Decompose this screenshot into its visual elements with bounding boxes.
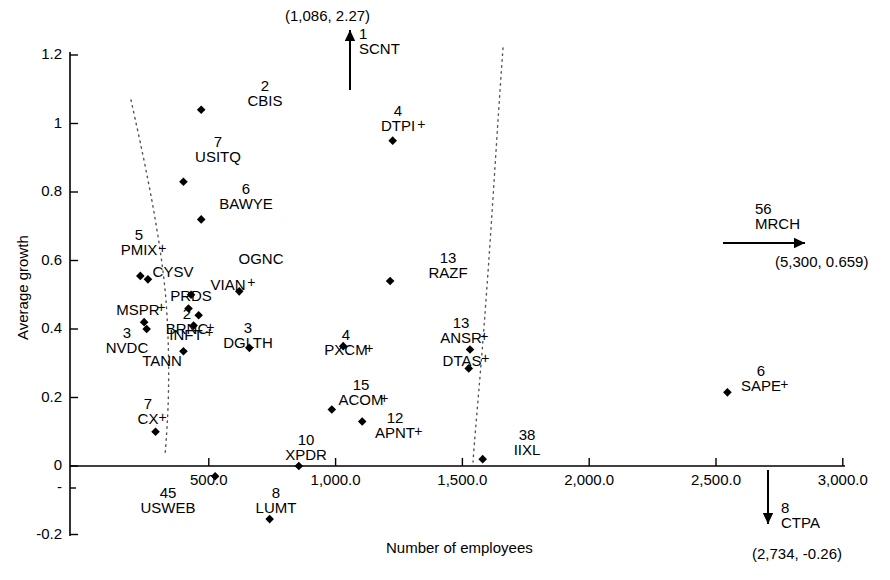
data-point-ticker: DTAS bbox=[419, 353, 505, 368]
data-point-rank: 3 bbox=[84, 325, 170, 340]
data-point-rank: 10 bbox=[263, 432, 349, 447]
data-point-rank: 2 bbox=[144, 306, 230, 321]
data-point-ticker: RAZF bbox=[405, 265, 491, 280]
off-scale-rank: 56 bbox=[755, 201, 831, 216]
data-point-rank: 15 bbox=[318, 377, 404, 392]
data-point-ticker: USWEB bbox=[125, 500, 211, 515]
data-point-label: 6BAWYE bbox=[203, 181, 289, 212]
data-point-rank: 13 bbox=[418, 315, 504, 330]
data-point-rank: 2 bbox=[222, 78, 308, 93]
x-tick-label: 2,000.0 bbox=[539, 472, 639, 487]
data-point-ticker: IIXL bbox=[484, 442, 570, 457]
data-point-marker bbox=[265, 515, 274, 524]
data-point-marker bbox=[386, 277, 395, 286]
x-tick-label: 1,500.0 bbox=[412, 472, 512, 487]
data-point-label: TANN bbox=[119, 353, 205, 368]
data-point-label: 6SAPE bbox=[718, 363, 804, 394]
data-point-ticker: DTPI bbox=[355, 118, 441, 133]
plus-marker-icon: + bbox=[417, 116, 425, 132]
data-point-label: 7CX bbox=[105, 396, 191, 427]
off-scale-coordinates: (2,734, -0.26) bbox=[752, 546, 842, 561]
plus-marker-icon: + bbox=[480, 328, 488, 344]
y-tick-label: 1 bbox=[0, 115, 62, 130]
data-point-rank: 4 bbox=[355, 103, 441, 118]
off-scale-rank: 8 bbox=[781, 500, 857, 515]
x-axis-title: Number of employees bbox=[386, 540, 533, 555]
data-point-marker bbox=[179, 177, 188, 186]
off-scale-ticker: CTPA bbox=[781, 515, 857, 530]
off-scale-label: 56MRCH bbox=[755, 201, 831, 232]
plus-marker-icon: + bbox=[481, 350, 489, 366]
y-tick-label: 0.6 bbox=[0, 252, 62, 267]
y-tick-label: 1.2 bbox=[0, 46, 62, 61]
data-point-label: 3DGLTH bbox=[205, 320, 291, 351]
plus-marker-icon: + bbox=[247, 274, 255, 290]
y-minor-tick-dash: - bbox=[0, 479, 62, 494]
data-point-ticker: APNT bbox=[352, 425, 438, 440]
data-point-label: 15ACOM bbox=[318, 377, 404, 408]
data-point-label: 13RAZF bbox=[405, 250, 491, 281]
data-point-rank: 7 bbox=[105, 396, 191, 411]
data-point-label: 4PXCM bbox=[303, 327, 389, 358]
data-point-ticker: ANSR bbox=[418, 330, 504, 345]
data-point-marker bbox=[388, 136, 397, 145]
y-tick-label: 0.4 bbox=[0, 320, 62, 335]
data-point-rank: 45 bbox=[125, 485, 211, 500]
data-point-ticker: ACOM bbox=[318, 392, 404, 407]
scatter-plot-figure: Average growth Number of employees 1.210… bbox=[0, 0, 890, 580]
y-tick-label: 0 bbox=[0, 457, 62, 472]
y-tick-label: 0.8 bbox=[0, 183, 62, 198]
y-axis-ticks bbox=[70, 55, 78, 535]
plus-marker-icon: + bbox=[380, 390, 388, 406]
y-tick-label: 0.2 bbox=[0, 389, 62, 404]
data-point-label: 8LUMT bbox=[233, 485, 319, 516]
data-point-label: 4DTPI bbox=[355, 103, 441, 134]
off-scale-label: 8CTPA bbox=[781, 500, 857, 531]
data-point-ticker: BAWYE bbox=[203, 196, 289, 211]
data-point-label: 2CBIS bbox=[222, 78, 308, 109]
data-point-label: 7USITQ bbox=[175, 134, 261, 165]
data-point-ticker: LUMT bbox=[233, 500, 319, 515]
off-scale-coordinates: (5,300, 0.659) bbox=[775, 254, 868, 269]
data-point-rank: 6 bbox=[203, 181, 289, 196]
data-point-ticker: CBIS bbox=[222, 93, 308, 108]
data-point-ticker: USITQ bbox=[175, 149, 261, 164]
data-point-marker bbox=[151, 427, 160, 436]
plus-marker-icon: + bbox=[414, 423, 422, 439]
x-tick-label: 2,500.0 bbox=[666, 472, 766, 487]
plus-marker-icon: + bbox=[780, 376, 788, 392]
data-point-label: OGNC bbox=[218, 251, 304, 266]
data-point-label: 10XPDR bbox=[263, 432, 349, 463]
data-point-label: 13ANSR bbox=[418, 315, 504, 346]
data-point-rank: 7 bbox=[175, 134, 261, 149]
data-point-marker bbox=[197, 106, 206, 115]
arrow-right-mrch bbox=[723, 238, 805, 248]
data-point-ticker: PMIX bbox=[96, 242, 182, 257]
data-point-ticker: CX bbox=[105, 411, 191, 426]
data-point-ticker: TANN bbox=[119, 353, 205, 368]
data-point-label: 12APNT bbox=[352, 410, 438, 441]
data-point-rank: 38 bbox=[484, 427, 570, 442]
data-point-rank: 5 bbox=[96, 227, 182, 242]
plus-marker-icon: + bbox=[159, 409, 167, 425]
data-point-label: 5PMIX bbox=[96, 227, 182, 258]
data-point-rank: 12 bbox=[352, 410, 438, 425]
data-point-rank: 4 bbox=[303, 327, 389, 342]
data-point-rank: 3 bbox=[205, 320, 291, 335]
data-point-label: 45USWEB bbox=[125, 485, 211, 516]
data-point-ticker: PXCM bbox=[303, 342, 389, 357]
plus-marker-icon: + bbox=[158, 240, 166, 256]
data-point-ticker: SAPE bbox=[718, 378, 804, 393]
data-point-ticker: OGNC bbox=[218, 251, 304, 266]
x-tick-label: 3,000.0 bbox=[793, 472, 890, 487]
off-scale-ticker: SCNT bbox=[359, 41, 435, 56]
data-point-rank: 8 bbox=[233, 485, 319, 500]
data-point-label: 38IIXL bbox=[484, 427, 570, 458]
data-point-label: DTAS bbox=[419, 353, 505, 368]
plus-marker-icon: + bbox=[365, 340, 373, 356]
data-point-rank: 13 bbox=[405, 250, 491, 265]
off-scale-ticker: MRCH bbox=[755, 216, 831, 231]
data-point-marker bbox=[197, 215, 206, 224]
data-point-rank: 6 bbox=[718, 363, 804, 378]
arrow-up-scnt bbox=[345, 30, 355, 90]
